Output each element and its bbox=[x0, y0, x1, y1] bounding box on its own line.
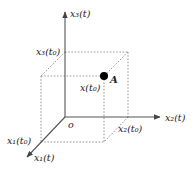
x2-t0-label: x₂(t₀) bbox=[118, 124, 142, 134]
x1-axis bbox=[27, 117, 65, 157]
x3-t0-label: x₃(t₀) bbox=[36, 47, 60, 57]
x1-t0-label: x₁(t₀) bbox=[7, 136, 31, 146]
box-edge-top-right-depth bbox=[104, 52, 128, 76]
origin-label: o bbox=[68, 120, 74, 130]
x3-axis-label: x₃(t) bbox=[70, 9, 90, 19]
point-vector-label: x(t₀) bbox=[80, 83, 100, 93]
coordinate-diagram: x₃(t) x₂(t) x₁(t) x₃(t₀) x₂(t₀) x₁(t₀) o… bbox=[0, 0, 194, 175]
x2-axis-label: x₂(t) bbox=[165, 113, 185, 123]
point-a-label: A bbox=[110, 75, 118, 85]
point-a bbox=[100, 72, 108, 80]
x1-axis-label: x₁(t) bbox=[34, 153, 54, 163]
